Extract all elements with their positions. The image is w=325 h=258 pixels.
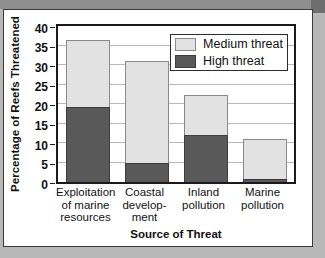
x-category-label-line: Exploitation bbox=[56, 186, 115, 199]
bar-group[interactable] bbox=[66, 40, 110, 182]
y-tick-mark bbox=[50, 183, 55, 184]
legend-item[interactable]: High threat bbox=[175, 54, 283, 68]
y-tick-mark bbox=[50, 105, 55, 106]
bar-segment-medium-threat[interactable] bbox=[184, 95, 228, 135]
x-category-label: Exploitationof marineresources bbox=[56, 186, 115, 224]
x-category-label-line: Inland bbox=[174, 186, 233, 199]
scan-top-bar bbox=[0, 0, 325, 9]
x-axis-title: Source of Threat bbox=[56, 228, 296, 240]
scan-top-bar-corner bbox=[311, 0, 325, 13]
x-category-label: Coastaldevelop-ment bbox=[115, 186, 174, 224]
figure-frame: Percentage of Reefs Threatened Medium th… bbox=[0, 0, 325, 258]
x-category-label-line: pollution bbox=[174, 199, 233, 212]
y-tick-label: 30 bbox=[35, 62, 48, 74]
y-tick-label: 40 bbox=[35, 23, 48, 35]
y-tick-label: 10 bbox=[35, 140, 48, 152]
x-category-label-line: of marine bbox=[56, 199, 115, 212]
legend-swatch-medium bbox=[175, 38, 196, 51]
bar-segment-high-threat[interactable] bbox=[66, 107, 110, 182]
y-tick-label: 15 bbox=[35, 120, 48, 132]
bar-segment-high-threat[interactable] bbox=[243, 179, 287, 182]
y-axis-title: Percentage of Reefs Threatened bbox=[7, 24, 23, 184]
x-category-label-line: Marine bbox=[233, 186, 292, 199]
x-axis-category-labels: Exploitationof marineresourcesCoastaldev… bbox=[56, 186, 296, 230]
bar-segment-medium-threat[interactable] bbox=[243, 139, 287, 179]
y-tick-mark bbox=[50, 27, 55, 28]
bar-segment-medium-threat[interactable] bbox=[66, 40, 110, 107]
legend-label: High threat bbox=[203, 54, 264, 68]
y-tick-mark bbox=[50, 47, 55, 48]
bar-segment-high-threat[interactable] bbox=[184, 135, 228, 182]
bar-segment-medium-threat[interactable] bbox=[125, 61, 169, 162]
bar-group[interactable] bbox=[125, 61, 169, 182]
y-tick-mark bbox=[50, 144, 55, 145]
chart-card: Percentage of Reefs Threatened Medium th… bbox=[3, 9, 313, 247]
legend-swatch-high bbox=[175, 55, 196, 68]
y-tick-label: 20 bbox=[35, 101, 48, 113]
y-tick-label: 25 bbox=[35, 81, 48, 93]
y-tick-mark bbox=[50, 86, 55, 87]
y-tick-mark bbox=[50, 125, 55, 126]
x-category-label-line: ment bbox=[115, 211, 174, 224]
y-axis-title-label: Percentage of Reefs Threatened bbox=[9, 16, 21, 192]
plot-area: Medium threatHigh threat bbox=[56, 24, 296, 184]
y-tick-label: 0 bbox=[41, 179, 48, 191]
legend-item[interactable]: Medium threat bbox=[175, 37, 283, 51]
y-tick-mark bbox=[50, 66, 55, 67]
bar-segment-high-threat[interactable] bbox=[125, 163, 169, 183]
y-tick-mark bbox=[50, 164, 55, 165]
plot-area-wrapper: Medium threatHigh threat 051015202530354… bbox=[56, 24, 296, 184]
bar-group[interactable] bbox=[243, 139, 287, 182]
x-category-label-line: develop- bbox=[115, 199, 174, 212]
x-category-label-line: resources bbox=[56, 211, 115, 224]
y-tick-label: 5 bbox=[41, 159, 48, 171]
chart-legend: Medium threatHigh threat bbox=[170, 34, 288, 71]
x-category-label: Inlandpollution bbox=[174, 186, 233, 211]
bar-group[interactable] bbox=[184, 95, 228, 182]
legend-label: Medium threat bbox=[203, 37, 283, 51]
y-tick-label: 35 bbox=[35, 42, 48, 54]
x-category-label-line: Coastal bbox=[115, 186, 174, 199]
x-category-label: Marinepollution bbox=[233, 186, 292, 211]
x-category-label-line: pollution bbox=[233, 199, 292, 212]
